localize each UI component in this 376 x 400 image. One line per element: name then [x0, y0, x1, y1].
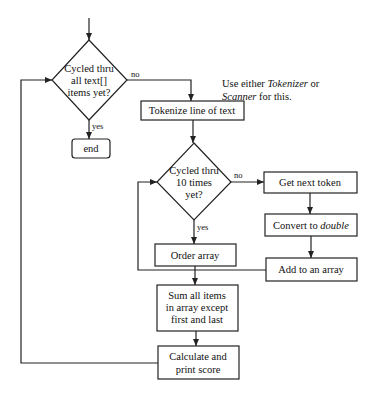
add-to-array-label: Add to an array — [278, 264, 344, 275]
flowchart: Cycled thru all text[] items yet? yes en… — [0, 0, 376, 400]
order-array-label: Order array — [171, 250, 220, 261]
convert-node: Convert to double — [265, 214, 357, 236]
order-array-node: Order array — [155, 244, 236, 266]
calc-score-line-1: Calculate and — [169, 351, 227, 362]
decision-text-items-line-3: items yet? — [68, 87, 111, 98]
decision-ten-times-line-2: 10 times — [176, 177, 212, 188]
d2-no-label: no — [234, 170, 243, 180]
sum-items-line-3: first and last — [171, 314, 223, 325]
d1-no-label: no — [131, 69, 140, 79]
tokenize-label: Tokenize line of text — [149, 105, 236, 116]
decision-ten-times-line-1: Cycled thru — [169, 165, 219, 176]
d1-yes-label: yes — [92, 121, 103, 131]
decision-ten-times-line-3: yet? — [185, 189, 203, 200]
note-annotation: Use either Tokenizer or Scanner for this… — [222, 78, 320, 102]
add-to-array-node: Add to an array — [266, 258, 357, 281]
end-node: end — [72, 139, 110, 158]
decision-text-items-line-1: Cycled thru — [64, 63, 114, 74]
convert-label: Convert to double — [273, 220, 349, 231]
d2-yes-label: yes — [197, 222, 208, 232]
get-next-token-node: Get next token — [264, 172, 357, 193]
d1-no-arrow — [127, 80, 191, 101]
decision-text-items: Cycled thru all text[] items yet? — [52, 40, 127, 120]
calc-score-node: Calculate and print score — [158, 346, 239, 379]
note-line-2: Scanner for this. — [222, 91, 292, 102]
tokenize-node: Tokenize line of text — [141, 101, 244, 120]
sum-items-node: Sum all items in array except first and … — [157, 285, 238, 331]
get-next-token-label: Get next token — [279, 177, 342, 188]
calc-score-line-2: print score — [176, 364, 221, 375]
end-label: end — [83, 143, 99, 154]
sum-items-line-2: in array except — [166, 302, 228, 313]
note-line-1: Use either Tokenizer or — [222, 78, 320, 89]
decision-ten-times: Cycled thru 10 times yet? — [157, 143, 231, 220]
decision-text-items-line-2: all text[] — [71, 75, 107, 86]
sum-items-line-1: Sum all items — [168, 290, 226, 301]
